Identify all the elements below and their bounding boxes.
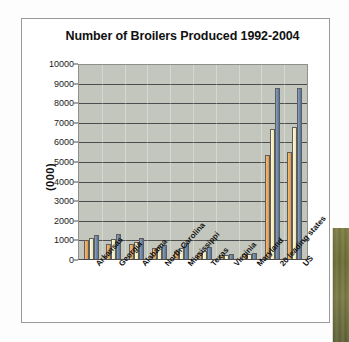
y-tick-mark [74, 181, 78, 182]
x-tick-label: Texas [209, 262, 216, 268]
x-tick-label: US [301, 262, 308, 268]
screenshot-root: Number of Broilers Produced 1992-2004 (0… [0, 0, 349, 342]
bar-group [103, 65, 126, 259]
bar-group [283, 65, 306, 259]
bar-group [148, 65, 171, 259]
x-axis-labels: ArkansasGeorgiaAlabamaNorth CarolinaMiss… [78, 262, 308, 324]
y-tick-label: 10000 [34, 59, 74, 69]
y-tick-mark [74, 240, 78, 241]
y-tick-label: 7000 [34, 118, 74, 128]
y-tick-mark [74, 260, 78, 261]
bar-group [80, 65, 103, 259]
x-tick-label: 20 leading states [278, 262, 285, 268]
y-tick-mark [74, 122, 78, 123]
y-tick-label: 9000 [34, 79, 74, 89]
y-tick-label: 8000 [34, 98, 74, 108]
y-tick-mark [74, 201, 78, 202]
chart-card: Number of Broilers Produced 1992-2004 (0… [21, 18, 330, 323]
x-tick-label: Georgia [117, 262, 124, 268]
y-tick-label: 2000 [34, 216, 74, 226]
y-tick-label: 5000 [34, 157, 74, 167]
bar [297, 88, 302, 259]
bar-group [261, 65, 284, 259]
y-tick-label: 0 [34, 255, 74, 265]
y-tick-mark [74, 83, 78, 84]
adjacent-image-strip [332, 228, 349, 342]
y-tick-mark [74, 64, 78, 65]
y-tick-label: 1000 [34, 235, 74, 245]
bar [252, 253, 257, 259]
y-tick-label: 3000 [34, 196, 74, 206]
x-tick-label: Arkansas [94, 262, 101, 268]
y-tick-label: 6000 [34, 137, 74, 147]
y-tick-mark [74, 142, 78, 143]
y-tick-mark [74, 162, 78, 163]
y-tick-mark [74, 220, 78, 221]
x-tick-label: Virginia [232, 262, 239, 268]
x-tick-label: Alabama [140, 262, 147, 268]
bar-group [216, 65, 239, 259]
bar [94, 235, 99, 259]
bar-group [170, 65, 193, 259]
bar [275, 88, 280, 259]
x-tick-label: Maryland [255, 262, 262, 268]
y-tick-label: 4000 [34, 177, 74, 187]
x-tick-label: North Carolina [163, 262, 170, 268]
bar-group [238, 65, 261, 259]
bar-group [125, 65, 148, 259]
y-tick-mark [74, 103, 78, 104]
chart-title: Number of Broilers Produced 1992-2004 [22, 29, 329, 43]
x-tick-label: Mississippi [186, 262, 193, 268]
